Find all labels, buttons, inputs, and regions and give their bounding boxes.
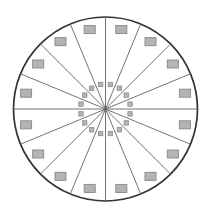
inner-square-marker bbox=[79, 102, 83, 106]
inner-square-marker bbox=[124, 93, 128, 97]
outer-square-marker bbox=[33, 150, 44, 158]
outer-square-marker bbox=[145, 38, 156, 46]
outer-square-marker bbox=[116, 184, 127, 192]
inner-square-marker bbox=[98, 131, 102, 135]
outer-square-marker bbox=[55, 172, 66, 180]
outer-square-marker bbox=[179, 89, 190, 97]
inner-square-marker bbox=[98, 82, 102, 86]
outer-square-marker bbox=[21, 121, 32, 129]
outer-square-marker bbox=[84, 184, 95, 192]
inner-square-marker bbox=[117, 128, 121, 132]
outer-square-marker bbox=[21, 89, 32, 97]
outer-square-marker bbox=[145, 172, 156, 180]
inner-square-marker bbox=[83, 93, 87, 97]
outer-square-marker bbox=[116, 26, 127, 34]
outer-square-marker bbox=[167, 150, 178, 158]
outer-square-marker bbox=[55, 38, 66, 46]
inner-square-marker bbox=[124, 121, 128, 125]
inner-square-marker bbox=[108, 131, 112, 135]
inner-square-marker bbox=[89, 86, 93, 90]
sector-wheel-diagram bbox=[0, 0, 211, 219]
inner-square-marker bbox=[128, 112, 132, 116]
diagram-canvas bbox=[0, 0, 211, 219]
inner-square-marker bbox=[89, 128, 93, 132]
inner-square-marker bbox=[128, 102, 132, 106]
inner-square-marker bbox=[79, 112, 83, 116]
outer-square-marker bbox=[84, 26, 95, 34]
outer-square-marker bbox=[179, 121, 190, 129]
inner-square-marker bbox=[117, 86, 121, 90]
sector-boundary-lines bbox=[14, 17, 198, 201]
inner-square-marker bbox=[83, 121, 87, 125]
outer-square-marker bbox=[33, 60, 44, 68]
outer-square-marker bbox=[167, 60, 178, 68]
inner-square-marker bbox=[108, 82, 112, 86]
